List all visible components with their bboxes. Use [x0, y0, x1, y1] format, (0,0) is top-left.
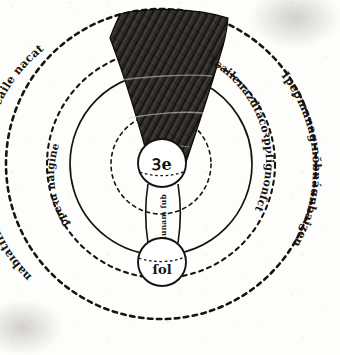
earth-body: Ꝫe	[138, 139, 186, 187]
shadow-column-left-edge	[146, 184, 148, 243]
earth-label: Ꝫe	[152, 155, 171, 174]
caption-inner-left: ꝑpeꝛu naſgine	[44, 141, 72, 230]
sun-label: ſol	[152, 262, 171, 277]
caption-outer-right: Ipeꝑmanagınŏbnáɑnbaiʒen	[279, 69, 324, 250]
caption-middle-right: Tcailenazdtacoꝛpꝩſignonſct	[206, 53, 276, 215]
sun-body: ſol	[138, 238, 186, 286]
shadow-column-right-edge	[178, 184, 180, 243]
